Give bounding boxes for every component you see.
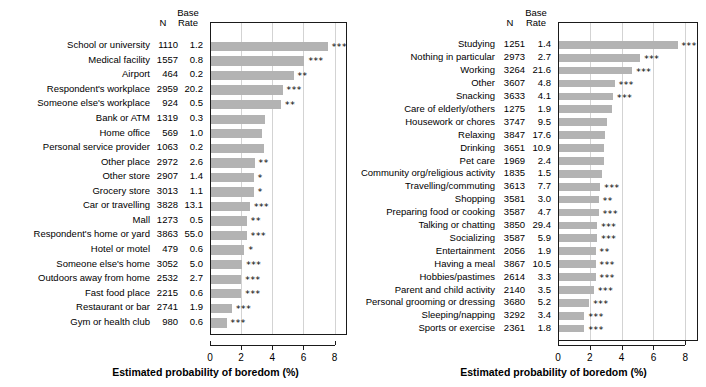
column-header-base-rate: Base Rate <box>521 8 551 28</box>
bar <box>211 289 241 298</box>
x-axis-tick-label: 4 <box>262 352 282 363</box>
category-label: Community org/religious activity <box>353 167 495 179</box>
x-axis-tick-label: 6 <box>643 352 663 363</box>
bar <box>559 80 615 88</box>
significance-marker: *** <box>603 210 618 219</box>
bar <box>211 187 254 196</box>
significance-marker: ** <box>259 159 269 168</box>
bar <box>559 67 632 75</box>
base-rate-value: 1.9 <box>519 103 551 115</box>
x-axis-tick-label: 0 <box>548 352 568 363</box>
significance-marker: *** <box>251 232 266 241</box>
bar <box>211 260 242 269</box>
significance-marker: *** <box>604 184 619 193</box>
bar <box>559 286 594 294</box>
base-rate-value: 1.4 <box>519 38 551 50</box>
significance-marker: *** <box>593 300 608 309</box>
category-label: Mall <box>0 214 150 226</box>
bar <box>211 231 247 240</box>
category-label: Grocery store <box>0 185 150 197</box>
significance-marker: *** <box>287 86 302 95</box>
category-label: Working <box>353 64 495 76</box>
bar <box>211 100 281 109</box>
category-label: Someone else's workplace <box>0 97 150 109</box>
significance-marker: ** <box>600 248 610 257</box>
category-label: Drinking <box>353 142 495 154</box>
bar <box>559 299 589 307</box>
x-axis-tick <box>622 346 623 350</box>
significance-marker: *** <box>308 57 323 66</box>
bar <box>559 105 612 113</box>
significance-marker: *** <box>332 43 347 52</box>
base-rate-value: 5.0 <box>171 258 203 270</box>
base-rate-value: 13.1 <box>171 199 203 211</box>
base-rate-value: 2.7 <box>171 272 203 284</box>
bar <box>559 312 584 320</box>
x-axis-tick <box>272 346 273 350</box>
bar <box>559 118 607 126</box>
base-rate-value: 1.9 <box>519 245 551 257</box>
category-label: Bank or ATM <box>0 112 150 124</box>
bar <box>211 173 254 182</box>
x-axis-tick-label: 4 <box>612 352 632 363</box>
base-rate-value: 2.7 <box>519 51 551 63</box>
category-label: Care of elderly/others <box>353 103 495 115</box>
category-label: Outdoors away from home <box>0 272 150 284</box>
gridline <box>685 23 686 340</box>
significance-marker: *** <box>601 235 616 244</box>
bar <box>559 196 599 204</box>
base-rate-value: 1.0 <box>171 127 203 139</box>
significance-marker: *** <box>644 55 659 64</box>
significance-marker: *** <box>254 203 269 212</box>
base-rate-value: 0.5 <box>171 214 203 226</box>
base-rate-value: 4.1 <box>519 90 551 102</box>
significance-marker: ** <box>285 101 295 110</box>
bar <box>559 183 600 191</box>
category-label: Snacking <box>353 90 495 102</box>
category-label: Hobbies/pastimes <box>353 271 495 283</box>
bar <box>559 41 678 49</box>
bar <box>559 325 584 333</box>
significance-marker: *** <box>601 223 616 232</box>
base-rate-value: 17.6 <box>519 129 551 141</box>
base-rate-value: 0.3 <box>171 112 203 124</box>
x-axis-tick <box>335 341 336 345</box>
significance-marker: ** <box>603 197 613 206</box>
bar <box>559 93 613 101</box>
bar <box>559 209 599 217</box>
x-axis-tick-label: 0 <box>200 352 220 363</box>
category-label: Having a meal <box>353 258 495 270</box>
base-rate-value: 1.9 <box>171 301 203 313</box>
base-rate-value: 5.2 <box>519 296 551 308</box>
base-rate-value: 9.5 <box>519 116 551 128</box>
significance-marker: * <box>258 174 263 183</box>
x-axis-title: Estimated probability of boredom (%) <box>0 366 353 378</box>
category-label: Socializing <box>353 232 495 244</box>
category-label: Other store <box>0 170 150 182</box>
category-label: Hotel or motel <box>0 243 150 255</box>
gridline <box>335 23 336 334</box>
significance-marker: *** <box>245 276 260 285</box>
category-label: Parent and child activity <box>353 284 495 296</box>
x-axis-tick-label: 8 <box>325 352 345 363</box>
category-label: Gym or health club <box>0 316 150 328</box>
x-axis-tick <box>685 341 686 345</box>
bar <box>211 71 294 80</box>
significance-marker: ** <box>298 72 308 81</box>
category-label: Studying <box>353 38 495 50</box>
base-rate-value: 10.5 <box>519 258 551 270</box>
base-rate-value: 0.2 <box>171 68 203 80</box>
base-rate-value: 0.8 <box>171 54 203 66</box>
gridline <box>303 23 304 334</box>
plot-area: ****************************************… <box>558 22 698 341</box>
bar <box>559 273 596 281</box>
base-rate-value: 2.4 <box>519 155 551 167</box>
bar <box>559 234 597 242</box>
category-label: Personal grooming or dressing <box>353 296 495 308</box>
bar <box>211 144 264 153</box>
significance-marker: *** <box>246 261 261 270</box>
significance-marker: *** <box>617 94 632 103</box>
base-rate-value: 0.6 <box>171 287 203 299</box>
base-rate-value: 0.6 <box>171 316 203 328</box>
chart-panel-left: NBase Rate******************************… <box>0 0 353 387</box>
